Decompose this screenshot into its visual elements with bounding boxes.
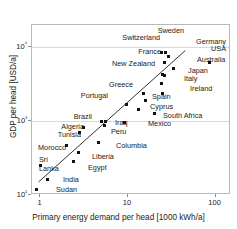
y-tick-mark <box>28 120 31 121</box>
data-point <box>163 61 166 64</box>
x-tick-mark <box>39 194 40 197</box>
data-point-label: Sri Lanka <box>39 156 59 173</box>
x-tick-label: 10 <box>123 198 131 207</box>
data-point-label: France <box>138 48 161 56</box>
data-point <box>144 99 147 102</box>
data-point <box>104 120 107 123</box>
data-point <box>167 55 170 58</box>
data-point <box>72 160 75 163</box>
data-point-label: Switzerland <box>122 34 160 42</box>
data-point <box>153 112 156 115</box>
data-point-label: Greece <box>109 81 133 89</box>
data-point <box>103 124 106 127</box>
y-tick-label: 10² <box>17 189 27 200</box>
data-point <box>97 141 100 144</box>
data-point-label: Peru <box>111 128 126 136</box>
data-point-label: Liberia <box>92 153 114 161</box>
data-point-label: Spain <box>152 93 171 101</box>
data-point <box>46 178 49 181</box>
data-point-label: Brazil <box>74 113 92 121</box>
data-point <box>125 103 128 106</box>
data-point-label: India <box>63 176 79 184</box>
y-tick-mark <box>28 46 31 47</box>
data-point-label: Portugal <box>81 92 108 100</box>
plot-area <box>31 24 230 194</box>
data-point <box>35 188 38 191</box>
data-point <box>100 120 103 123</box>
data-point-label: Sweden <box>158 27 184 35</box>
data-point <box>163 74 166 77</box>
data-point-label: Sudan <box>56 186 77 194</box>
data-point-label: Morocco <box>38 144 66 152</box>
x-tick-mark <box>215 194 216 197</box>
data-point-label: Mexico <box>148 120 171 128</box>
data-point <box>137 108 140 111</box>
data-point <box>164 51 167 54</box>
data-point-label: Australia <box>197 56 225 64</box>
x-tick-label: 1 <box>37 198 41 207</box>
scatter-chart: GDP per head [USD/a] Primary energy dema… <box>0 0 237 229</box>
x-tick-mark <box>127 194 128 197</box>
data-point <box>77 151 80 154</box>
trend-line <box>32 25 231 195</box>
data-point-label: Cyprus <box>150 103 173 111</box>
data-point-label: USA <box>211 45 226 53</box>
gridline-y <box>32 47 229 48</box>
y-tick-label: 10³ <box>17 115 27 126</box>
data-point-label: Tunisia <box>58 131 81 139</box>
y-tick-label: 10⁴ <box>16 41 27 52</box>
y-tick-mark <box>28 194 31 195</box>
data-point-label: Iraq <box>115 119 128 127</box>
x-tick-label: 100 <box>208 198 221 207</box>
x-axis-title: Primary energy demand per head [1000 kWh… <box>0 213 237 222</box>
data-point-label: Egypt <box>88 164 107 172</box>
data-point-label: Ireland <box>190 85 212 93</box>
data-point <box>172 67 175 70</box>
data-point-label: Italy <box>184 75 197 83</box>
data-point-label: New Zealand <box>112 60 155 68</box>
data-point-label: Columbia <box>116 142 147 150</box>
data-point <box>142 92 145 95</box>
data-point <box>160 82 163 85</box>
